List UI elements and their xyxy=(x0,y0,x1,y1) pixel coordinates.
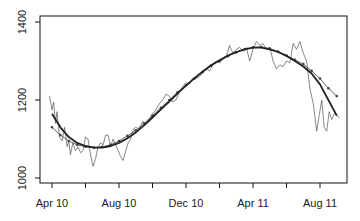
data-point xyxy=(51,126,54,129)
data-point xyxy=(319,77,322,80)
y-axis: 100012001400 xyxy=(16,10,40,190)
y-tick-label: 1400 xyxy=(16,10,28,34)
series-line-thick-trend xyxy=(52,48,337,148)
x-tick-label: Apr 10 xyxy=(36,197,68,209)
plot-frame xyxy=(40,16,347,183)
line-chart: 100012001400 Apr 10Aug 10Dec 10Apr 11Aug… xyxy=(0,0,360,221)
y-tick-label: 1000 xyxy=(16,166,28,190)
data-point xyxy=(327,87,330,90)
series-group xyxy=(50,42,340,167)
x-tick-label: Dec 10 xyxy=(169,197,204,209)
data-point xyxy=(67,140,70,143)
x-tick-label: Aug 10 xyxy=(102,197,137,209)
series-line-dotted-smooth xyxy=(52,47,337,148)
data-point xyxy=(335,95,338,98)
x-tick-label: Aug 11 xyxy=(303,197,337,209)
data-point xyxy=(59,134,62,137)
y-tick-label: 1200 xyxy=(16,88,28,112)
x-tick-label: Apr 11 xyxy=(237,197,269,209)
x-axis: Apr 10Aug 10Dec 10Apr 11Aug 11 xyxy=(36,183,337,209)
